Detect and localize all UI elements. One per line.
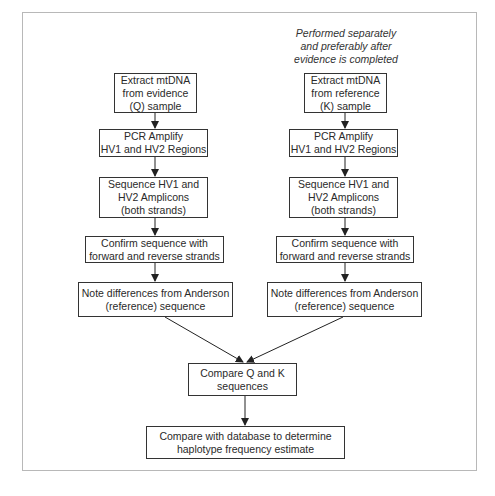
step-confirm-k: Confirm sequence with forward and revers…	[276, 236, 414, 263]
step-label: Note differences from Anderson (referenc…	[82, 287, 229, 313]
step-compare-q-k: Compare Q and K sequences	[188, 363, 297, 396]
step-sequence-q: Sequence HV1 and HV2 Amplicons (both str…	[99, 177, 208, 218]
step-extract-evidence: Extract mtDNA from evidence (Q) sample	[114, 73, 197, 113]
flow-arrows	[0, 0, 495, 496]
step-label: PCR Amplify HV1 and HV2 Regions	[291, 130, 397, 156]
step-label: Compare with database to determine haplo…	[159, 430, 331, 456]
step-compare-database: Compare with database to determine haplo…	[146, 426, 345, 459]
step-pcr-amplify-q: PCR Amplify HV1 and HV2 Regions	[99, 129, 208, 157]
step-note-differences-k: Note differences from Anderson (referenc…	[267, 282, 422, 317]
step-label: Extract mtDNA from reference (K) sample	[311, 74, 380, 113]
annotation-note: Performed separately and preferably afte…	[280, 27, 412, 65]
step-label: PCR Amplify HV1 and HV2 Regions	[101, 130, 207, 156]
step-label: Note differences from Anderson (referenc…	[271, 287, 418, 313]
step-label: Sequence HV1 and HV2 Amplicons (both str…	[108, 178, 199, 217]
step-label: Compare Q and K sequences	[200, 367, 285, 393]
step-confirm-q: Confirm sequence with forward and revers…	[85, 236, 224, 263]
step-label: Confirm sequence with forward and revers…	[280, 237, 411, 263]
step-sequence-k: Sequence HV1 and HV2 Amplicons (both str…	[289, 177, 398, 218]
step-label: Confirm sequence with forward and revers…	[89, 237, 220, 263]
step-note-differences-q: Note differences from Anderson (referenc…	[78, 282, 233, 317]
step-label: Sequence HV1 and HV2 Amplicons (both str…	[298, 178, 389, 217]
step-pcr-amplify-k: PCR Amplify HV1 and HV2 Regions	[289, 129, 398, 157]
step-extract-reference: Extract mtDNA from reference (K) sample	[304, 73, 387, 113]
step-label: Extract mtDNA from evidence (Q) sample	[121, 74, 190, 113]
